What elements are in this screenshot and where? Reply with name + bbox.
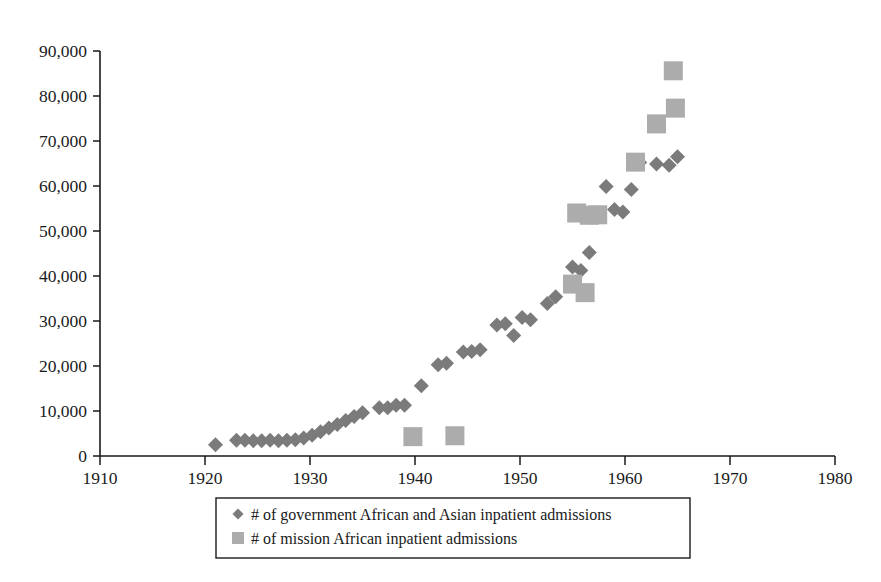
data-point-square: [403, 427, 422, 446]
legend-item-label: # of government African and Asian inpati…: [251, 506, 611, 524]
x-axis-tick-label: 1940: [398, 468, 433, 488]
scatter-chart: 010,00020,00030,00040,00050,00060,00070,…: [0, 0, 881, 582]
data-point-square: [664, 61, 683, 80]
x-axis-tick-label: 1910: [83, 468, 118, 488]
y-axis-tick-label: 10,000: [39, 401, 87, 421]
x-axis-tick-label: 1980: [818, 468, 853, 488]
y-axis-tick-label: 30,000: [39, 311, 87, 331]
x-axis-tick-label: 1970: [713, 468, 748, 488]
data-point-square: [666, 99, 685, 118]
y-axis-tick-label: 40,000: [39, 266, 87, 286]
data-point-square: [576, 283, 595, 302]
x-axis-tick-label: 1920: [188, 468, 223, 488]
y-axis-tick-label: 20,000: [39, 356, 87, 376]
y-axis-tick-label: 90,000: [39, 41, 87, 61]
legend-square-icon: [232, 532, 244, 544]
data-point-square: [647, 114, 666, 133]
legend-item[interactable]: # of government African and Asian inpati…: [233, 506, 612, 524]
chart-background: [0, 0, 881, 582]
legend-item-label: # of mission African inpatient admission…: [251, 530, 517, 548]
y-axis-tick-label: 70,000: [39, 131, 87, 151]
y-axis-tick-label: 50,000: [39, 221, 87, 241]
data-point-square: [626, 153, 645, 172]
y-axis-tick-label: 60,000: [39, 176, 87, 196]
x-axis-tick-label: 1950: [503, 468, 538, 488]
y-axis-tick-label: 0: [78, 446, 87, 466]
x-axis-tick-label: 1960: [608, 468, 643, 488]
chart-canvas: 010,00020,00030,00040,00050,00060,00070,…: [0, 0, 881, 582]
x-axis-tick-label: 1930: [293, 468, 328, 488]
y-axis-tick-label: 80,000: [39, 86, 87, 106]
data-point-square: [588, 205, 607, 224]
data-point-square: [445, 426, 464, 445]
legend-item[interactable]: # of mission African inpatient admission…: [232, 530, 517, 548]
